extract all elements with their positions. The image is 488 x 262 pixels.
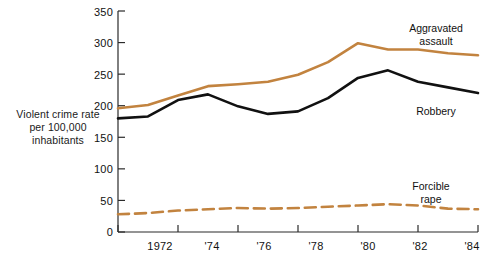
chart-plot-area xyxy=(0,0,488,262)
series-group xyxy=(118,43,478,214)
axes-group xyxy=(118,11,478,232)
y-axis-ticks xyxy=(118,11,125,232)
x-axis-ticks xyxy=(118,225,478,232)
line-forcible-rape xyxy=(118,204,478,214)
line-robbery xyxy=(118,70,478,118)
line-aggravated-assault xyxy=(118,43,478,108)
chart-figure: Violent crime rate per 100,000 inhabitan… xyxy=(0,0,488,262)
